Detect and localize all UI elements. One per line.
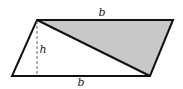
parallelogram-diagram: b b h [0, 0, 183, 89]
top-base-label: b [98, 6, 105, 19]
height-label: h [39, 43, 46, 56]
bottom-base-label: b [77, 76, 84, 89]
